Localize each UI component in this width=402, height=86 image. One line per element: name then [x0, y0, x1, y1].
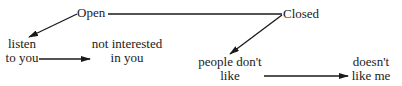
- node-doesnt-like-me-line2: like me: [348, 69, 394, 83]
- node-listen-to-you: listen to you: [4, 37, 40, 65]
- node-doesnt-like-me: doesn't like me: [348, 55, 394, 83]
- node-not-interested-in-you: not interested in you: [88, 37, 166, 65]
- node-not-interested-line1: not interested: [88, 37, 166, 51]
- node-doesnt-like-me-line1: doesn't: [348, 55, 394, 69]
- node-people-dont-like: people don't like: [194, 55, 266, 83]
- node-listen-line2: to you: [4, 51, 40, 65]
- node-listen-line1: listen: [4, 37, 40, 51]
- closed-to-people-dont-like-arrow: [230, 15, 282, 54]
- node-open: Open: [77, 6, 105, 20]
- node-people-dont-like-line1: people don't: [194, 55, 266, 69]
- open-to-listen-arrow: [29, 14, 77, 37]
- node-closed: Closed: [283, 7, 319, 21]
- node-not-interested-line2: in you: [88, 51, 166, 65]
- node-people-dont-like-line2: like: [194, 69, 266, 83]
- node-closed-label: Closed: [283, 7, 319, 21]
- node-open-label: Open: [77, 6, 105, 20]
